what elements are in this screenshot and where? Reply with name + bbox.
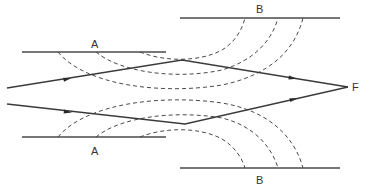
wavefront-arc-upper-middle — [96, 18, 278, 74]
wavefront-arc-lower-outer — [58, 100, 303, 168]
wavefront-arc-upper-inner — [140, 18, 245, 59]
arrow-icon-upper-incoming — [63, 78, 71, 82]
ray-lower — [7, 87, 348, 124]
wavefront-arc-upper-outer — [58, 18, 303, 89]
arrow-icon-lower-outgoing — [289, 98, 298, 102]
label-b-top: B — [256, 3, 263, 15]
label-b-bottom: B — [256, 174, 263, 186]
lens-wavefront-diagram: B A A B F — [0, 0, 365, 190]
wavefront-arc-lower-middle — [96, 115, 278, 168]
label-a-top: A — [91, 38, 99, 50]
label-focus-f: F — [352, 81, 359, 93]
wavefront-arc-lower-inner — [140, 130, 245, 168]
label-a-bottom: A — [91, 145, 99, 157]
